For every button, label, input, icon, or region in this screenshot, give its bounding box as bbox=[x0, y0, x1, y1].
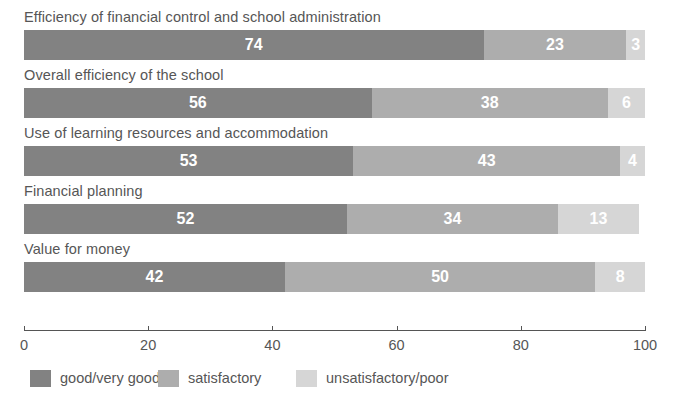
bar-segment-unsatis: 6 bbox=[608, 88, 645, 118]
bar-segment-good: 53 bbox=[24, 146, 353, 176]
legend-label: good/very good bbox=[60, 369, 160, 387]
chart-row: Value for money42508 bbox=[0, 238, 676, 294]
legend-item-satis: satisfactory bbox=[158, 368, 261, 388]
bar-segment-good: 56 bbox=[24, 88, 372, 118]
chart-row: Financial planning523413 bbox=[0, 180, 676, 236]
axis-tick bbox=[148, 326, 149, 331]
stacked-bar: 53434 bbox=[24, 146, 645, 176]
axis-tick bbox=[645, 326, 646, 331]
bar-segment-value: 74 bbox=[24, 30, 484, 60]
bar-segment-value: 4 bbox=[620, 146, 645, 176]
bar-segment-value: 6 bbox=[608, 88, 645, 118]
bar-segment-satis: 34 bbox=[347, 204, 558, 234]
bar-segment-value: 13 bbox=[558, 204, 639, 234]
chart-legend: good/very goodsatisfactoryunsatisfactory… bbox=[0, 368, 676, 392]
row-label: Use of learning resources and accommodat… bbox=[24, 122, 328, 144]
axis-tick bbox=[397, 326, 398, 331]
bar-segment-value: 34 bbox=[347, 204, 558, 234]
bar-segment-good: 52 bbox=[24, 204, 347, 234]
bar-segment-satis: 23 bbox=[484, 30, 627, 60]
row-label: Value for money bbox=[24, 238, 130, 260]
stacked-bar: 56386 bbox=[24, 88, 645, 118]
bar-segment-good: 42 bbox=[24, 262, 285, 292]
legend-swatch-satis bbox=[158, 370, 179, 387]
stacked-bar: 42508 bbox=[24, 262, 645, 292]
stacked-bar-chart: Efficiency of financial control and scho… bbox=[0, 0, 676, 414]
bar-segment-value: 50 bbox=[285, 262, 596, 292]
axis-tick bbox=[272, 326, 273, 331]
axis-tick bbox=[24, 326, 25, 331]
bar-segment-unsatis: 4 bbox=[620, 146, 645, 176]
axis-tick-label: 20 bbox=[140, 336, 156, 354]
legend-item-good: good/very good bbox=[30, 368, 160, 388]
bar-segment-unsatis: 8 bbox=[595, 262, 645, 292]
bar-segment-value: 53 bbox=[24, 146, 353, 176]
legend-swatch-good bbox=[30, 370, 51, 387]
row-label: Overall efficiency of the school bbox=[24, 64, 224, 86]
bar-segment-value: 3 bbox=[626, 30, 645, 60]
legend-item-unsatis: unsatisfactory/poor bbox=[296, 368, 449, 388]
axis-tick-label: 100 bbox=[633, 336, 657, 354]
bar-segment-value: 43 bbox=[353, 146, 620, 176]
axis-tick bbox=[521, 326, 522, 331]
bar-segment-unsatis: 13 bbox=[558, 204, 639, 234]
bar-segment-good: 74 bbox=[24, 30, 484, 60]
chart-row: Use of learning resources and accommodat… bbox=[0, 122, 676, 178]
stacked-bar: 74233 bbox=[24, 30, 645, 60]
bar-segment-value: 52 bbox=[24, 204, 347, 234]
bar-segment-value: 56 bbox=[24, 88, 372, 118]
axis-tick-label: 40 bbox=[264, 336, 280, 354]
bar-segment-value: 38 bbox=[372, 88, 608, 118]
legend-label: unsatisfactory/poor bbox=[326, 369, 449, 387]
legend-label: satisfactory bbox=[188, 369, 261, 387]
bar-segment-satis: 43 bbox=[353, 146, 620, 176]
bar-segment-value: 8 bbox=[595, 262, 645, 292]
chart-row: Efficiency of financial control and scho… bbox=[0, 6, 676, 62]
axis-tick-label: 60 bbox=[389, 336, 405, 354]
axis-tick-label: 80 bbox=[513, 336, 529, 354]
stacked-bar: 523413 bbox=[24, 204, 639, 234]
bar-segment-satis: 50 bbox=[285, 262, 596, 292]
bar-segment-unsatis: 3 bbox=[626, 30, 645, 60]
bar-segment-value: 23 bbox=[484, 30, 627, 60]
x-axis: 020406080100 bbox=[0, 330, 676, 370]
row-label: Efficiency of financial control and scho… bbox=[24, 6, 381, 28]
chart-row: Overall efficiency of the school56386 bbox=[0, 64, 676, 120]
bar-segment-value: 42 bbox=[24, 262, 285, 292]
axis-line bbox=[24, 330, 645, 331]
legend-swatch-unsatis bbox=[296, 370, 317, 387]
row-label: Financial planning bbox=[24, 180, 143, 202]
bar-segment-satis: 38 bbox=[372, 88, 608, 118]
axis-tick-label: 0 bbox=[20, 336, 28, 354]
